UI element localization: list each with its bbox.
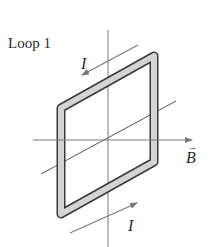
loop-title: Loop 1 — [8, 35, 51, 51]
field-vector-mark: → — [188, 142, 197, 152]
loop-diagram: Loop 1 I I B → — [0, 0, 220, 247]
current-label-bottom: I — [127, 217, 134, 234]
current-label-top: I — [80, 55, 87, 72]
